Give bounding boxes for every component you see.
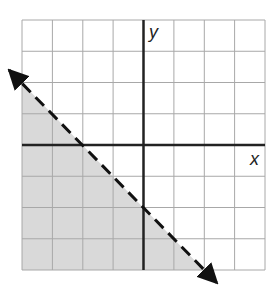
y-axis-label: y [147, 22, 159, 42]
x-axis-label: x [249, 149, 260, 169]
inequality-graph: y x [0, 0, 274, 301]
